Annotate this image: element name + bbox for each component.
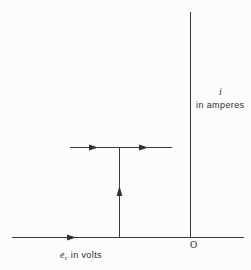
horizontal-segment-arrow-icon-left xyxy=(89,145,98,151)
y-axis-label: i in amperes xyxy=(196,86,245,111)
y-axis-symbol: i xyxy=(196,86,245,98)
x-axis-symbol-subscript: c xyxy=(65,254,68,261)
origin-label: O xyxy=(190,239,198,251)
x-axis-unit: in volts xyxy=(71,250,102,260)
vertical-segment-arrow-icon xyxy=(117,186,123,196)
figure-canvas xyxy=(0,0,251,270)
x-axis-label: ecin volts xyxy=(60,249,102,264)
tube-characteristic-figure: i in amperes ecin volts O xyxy=(0,0,251,270)
horizontal-segment-arrow-icon-right xyxy=(139,145,148,151)
y-axis-unit: in amperes xyxy=(196,99,245,111)
x-axis-arrow-icon xyxy=(67,235,76,241)
